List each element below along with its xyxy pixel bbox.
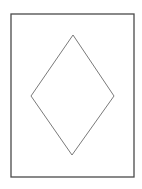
- diagram-canvas: [0, 0, 142, 189]
- diamond-shape: [31, 35, 114, 155]
- outer-rectangle-frame: [11, 14, 134, 177]
- diagram-svg: [0, 0, 142, 189]
